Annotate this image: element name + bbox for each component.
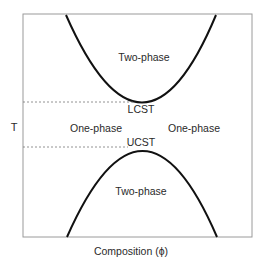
x-axis-label: Composition (ϕ) — [94, 245, 168, 257]
lcst-label: LCST — [128, 103, 155, 115]
lower-two-phase-label: Two-phase — [115, 185, 166, 197]
upper-two-phase-label: Two-phase — [118, 51, 169, 63]
phase-diagram-canvas — [0, 0, 266, 267]
ucst-label: UCST — [127, 136, 156, 148]
left-one-phase-label: One-phase — [70, 122, 122, 134]
y-axis-label: T — [11, 121, 18, 133]
right-one-phase-label: One-phase — [168, 122, 220, 134]
